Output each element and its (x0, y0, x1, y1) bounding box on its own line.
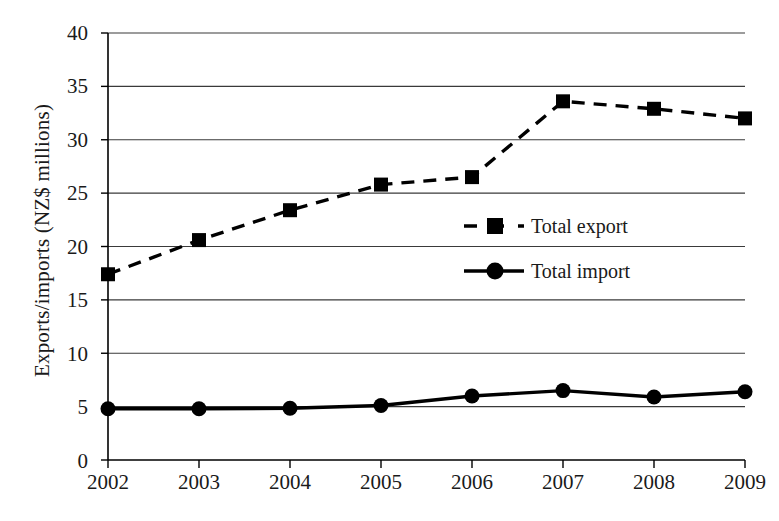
gridlines (108, 33, 745, 407)
plot-area (0, 0, 779, 521)
legend-label-total-export: Total export (531, 216, 628, 236)
legend-label-total-import: Total import (531, 261, 630, 281)
data-series-layer (101, 94, 753, 416)
chart-figure: Exports/imports (NZ$ millions) 40 35 30 … (0, 0, 779, 521)
legend-marks (464, 218, 524, 280)
